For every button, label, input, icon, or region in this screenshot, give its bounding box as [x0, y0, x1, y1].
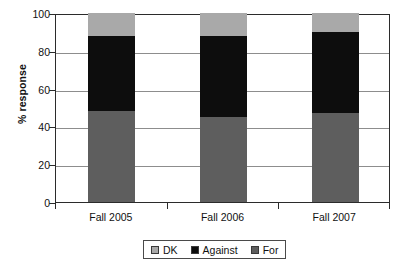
x-tick-label: Fall 2005	[56, 211, 166, 223]
y-tick-label: 80	[16, 47, 50, 57]
bar-group	[200, 13, 247, 202]
x-tick-label: Fall 2007	[279, 211, 389, 223]
plot-area	[55, 14, 390, 203]
y-tick-label: 60	[16, 85, 50, 95]
stacked-bar-chart: % response 100806040200 Fall 2005Fall 20…	[0, 0, 414, 269]
bar-segment-against	[88, 36, 135, 112]
legend-label: Against	[203, 245, 238, 255]
y-tick-label: 20	[16, 160, 50, 170]
bar-group	[312, 13, 359, 202]
x-tick-mark	[167, 203, 168, 209]
x-tick-mark	[278, 203, 279, 209]
bar-segment-against	[200, 36, 247, 117]
bar-segment-against	[312, 32, 359, 113]
bar-segment-dk	[88, 13, 135, 36]
y-tick-mark	[49, 14, 55, 15]
bar-segment-for	[88, 111, 135, 202]
x-tick-label: Fall 2006	[168, 211, 278, 223]
bar-segment-for	[312, 113, 359, 202]
y-tick-label: 0	[16, 198, 50, 208]
bar-segment-dk	[312, 13, 359, 32]
legend-swatch-against	[191, 246, 199, 254]
legend-swatch-for	[251, 246, 259, 254]
y-tick-mark	[49, 52, 55, 53]
legend-label: For	[263, 245, 279, 255]
x-tick-mark	[389, 203, 390, 209]
y-tick-mark	[49, 90, 55, 91]
legend-swatch-dk	[151, 246, 159, 254]
y-tick-mark	[49, 165, 55, 166]
y-tick-label: 100	[16, 9, 50, 19]
bar-group	[88, 13, 135, 202]
legend-label: DK	[163, 245, 178, 255]
legend-entry: DK	[151, 245, 178, 255]
bar-segment-dk	[200, 13, 247, 36]
legend-entry: For	[251, 245, 279, 255]
bar-segment-for	[200, 117, 247, 202]
legend-entry: Against	[191, 245, 238, 255]
chart-legend: DKAgainstFor	[143, 240, 286, 259]
y-tick-mark	[49, 127, 55, 128]
x-tick-mark	[55, 203, 56, 209]
y-tick-label: 40	[16, 122, 50, 132]
